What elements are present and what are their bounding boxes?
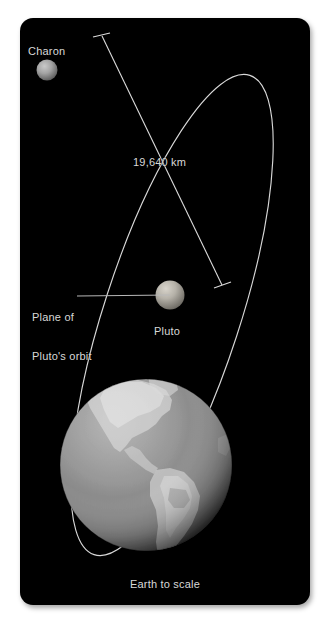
pluto-label: Pluto (154, 325, 180, 338)
plane-label-line2: Pluto's orbit (32, 350, 92, 363)
charon-body (37, 60, 58, 81)
figure-container: Charon 19,640 km Plane of Pluto's orbit … (0, 0, 329, 623)
charon-label: Charon (28, 45, 65, 58)
earth-body (60, 374, 232, 562)
plane-label-line1: Plane of (32, 311, 92, 324)
plane-label: Plane of Pluto's orbit (32, 285, 92, 389)
earth-scale-caption: Earth to scale (20, 578, 310, 591)
distance-label: 19,640 km (133, 156, 186, 169)
diagram-panel: Charon 19,640 km Plane of Pluto's orbit … (20, 18, 310, 605)
